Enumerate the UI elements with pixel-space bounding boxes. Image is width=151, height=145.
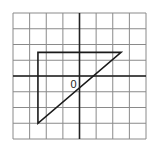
axes bbox=[13, 13, 146, 139]
origin-label: 0 bbox=[71, 78, 77, 90]
coordinate-grid-diagram: 0 bbox=[0, 0, 151, 145]
